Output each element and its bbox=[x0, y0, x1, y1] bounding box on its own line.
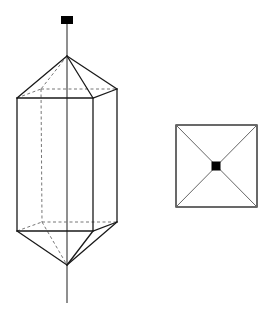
top-marker bbox=[61, 16, 73, 24]
center-marker bbox=[212, 162, 221, 171]
crystal-diagram bbox=[0, 0, 266, 320]
side-view bbox=[17, 16, 117, 303]
top-view bbox=[176, 125, 257, 207]
